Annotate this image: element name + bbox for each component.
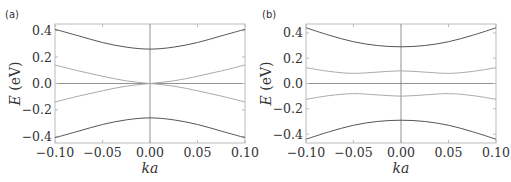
y-tick-label: 0.4 <box>32 23 52 38</box>
y-tick-label: 0.2 <box>283 51 303 66</box>
x-tick-label: 0.00 <box>387 145 415 160</box>
y-axis-title: E (eV) <box>7 61 23 106</box>
x-tick-label: 0.10 <box>482 145 510 160</box>
x-tick-label: 0.10 <box>231 145 259 160</box>
x-tick-label: −0.05 <box>334 145 372 160</box>
y-tick-label: 0.0 <box>283 76 303 91</box>
x-axis-title: ka <box>142 160 159 176</box>
chart-panel-b: (b)0.40.20.0−0.2−0.4−0.10−0.050.000.050.… <box>258 9 510 176</box>
y-tick-label: −0.4 <box>273 127 303 142</box>
y-tick-label: −0.2 <box>22 102 52 117</box>
x-tick-label: 0.00 <box>136 145 164 160</box>
panel-label: (a) <box>5 9 19 20</box>
y-tick-label: 0.0 <box>32 76 52 91</box>
x-tick-label: 0.05 <box>184 145 212 160</box>
y-tick-label: −0.2 <box>273 101 303 116</box>
x-tick-label: −0.10 <box>36 145 74 160</box>
band-structure-figure: (a)0.40.20.0−0.2−0.4−0.10−0.050.000.050.… <box>0 0 511 182</box>
x-tick-label: −0.10 <box>287 145 325 160</box>
y-tick-label: −0.4 <box>22 129 52 144</box>
panel-label: (b) <box>262 9 276 20</box>
y-axis-title: E (eV) <box>258 61 274 106</box>
y-tick-label: 0.2 <box>32 50 52 65</box>
chart-panel-a: (a)0.40.20.0−0.2−0.4−0.10−0.050.000.050.… <box>5 9 259 176</box>
x-tick-label: −0.05 <box>83 145 121 160</box>
x-tick-label: 0.05 <box>435 145 463 160</box>
y-tick-label: 0.4 <box>283 25 303 40</box>
x-axis-title: ka <box>393 160 410 176</box>
